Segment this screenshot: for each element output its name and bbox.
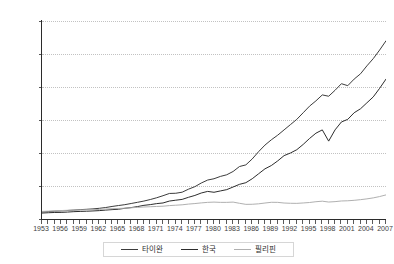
- x-axis-labels: 1953195619591962196519681971197419771980…: [41, 220, 386, 238]
- x-tick-mark: [232, 220, 233, 224]
- x-tick-mark: [296, 220, 297, 224]
- x-tick-label: 1983: [224, 225, 240, 233]
- x-tick-mark: [124, 220, 125, 224]
- x-tick-mark: [372, 220, 373, 224]
- x-tick-label: 2001: [339, 225, 355, 233]
- x-tick-mark: [219, 220, 220, 224]
- legend-entry-필리핀[interactable]: 필리핀: [234, 245, 276, 254]
- chart-title: [6, 0, 386, 3]
- legend-entry-한국[interactable]: 한국: [181, 245, 216, 254]
- x-tick-mark: [385, 220, 386, 224]
- x-tick-label: 1977: [186, 225, 202, 233]
- x-tick-label: 1995: [301, 225, 317, 233]
- legend-label: 타이완: [142, 245, 163, 254]
- chart-legend: 타이완한국필리핀: [103, 242, 294, 257]
- legend-swatch: [181, 249, 198, 250]
- x-tick-mark: [309, 220, 310, 224]
- x-tick-mark: [54, 220, 55, 224]
- x-tick-mark: [194, 220, 195, 224]
- x-tick-label: 1986: [243, 225, 259, 233]
- x-tick-mark: [86, 220, 87, 224]
- legend-label: 한국: [202, 245, 216, 254]
- x-tick-mark: [302, 220, 303, 224]
- x-tick-label: 1989: [263, 225, 279, 233]
- legend-swatch: [234, 249, 251, 250]
- x-tick-mark: [73, 220, 74, 224]
- legend-entry-타이완[interactable]: 타이완: [121, 245, 163, 254]
- x-tick-label: 1998: [320, 225, 336, 233]
- x-tick-mark: [347, 220, 348, 224]
- x-tick-mark: [188, 220, 189, 224]
- legend-swatch: [121, 249, 138, 250]
- x-tick-mark: [60, 220, 61, 224]
- x-tick-mark: [111, 220, 112, 224]
- x-tick-mark: [366, 220, 367, 224]
- x-tick-label: 2007: [377, 225, 393, 233]
- series-line-한국: [42, 79, 386, 213]
- x-tick-label: 1974: [167, 225, 183, 233]
- legend-label: 필리핀: [255, 245, 276, 254]
- x-tick-mark: [79, 220, 80, 224]
- x-tick-mark: [207, 220, 208, 224]
- x-tick-label: 1992: [282, 225, 298, 233]
- x-tick-label: 1956: [52, 225, 68, 233]
- x-tick-mark: [105, 220, 106, 224]
- x-tick-mark: [277, 220, 278, 224]
- x-tick-label: 1953: [33, 225, 49, 233]
- x-tick-mark: [149, 220, 150, 224]
- x-tick-mark: [226, 220, 227, 224]
- x-tick-mark: [289, 220, 290, 224]
- x-tick-mark: [340, 220, 341, 224]
- x-tick-mark: [47, 220, 48, 224]
- x-tick-mark: [143, 220, 144, 224]
- x-tick-mark: [98, 220, 99, 224]
- x-tick-mark: [334, 220, 335, 224]
- x-tick-mark: [175, 220, 176, 224]
- x-tick-label: 1962: [91, 225, 107, 233]
- x-tick-label: 1959: [71, 225, 87, 233]
- x-tick-mark: [264, 220, 265, 224]
- x-tick-mark: [41, 220, 42, 224]
- x-tick-mark: [66, 220, 67, 224]
- x-tick-mark: [137, 220, 138, 224]
- line-chart: 05,00010,00015,00020,00025,00030,000 195…: [0, 0, 394, 264]
- x-tick-mark: [168, 220, 169, 224]
- series-lines: [42, 21, 386, 219]
- x-tick-mark: [181, 220, 182, 224]
- x-tick-mark: [238, 220, 239, 224]
- y-axis-line: [41, 20, 42, 220]
- x-tick-mark: [270, 220, 271, 224]
- x-tick-mark: [162, 220, 163, 224]
- x-tick-mark: [315, 220, 316, 224]
- x-tick-mark: [130, 220, 131, 224]
- x-tick-mark: [200, 220, 201, 224]
- x-tick-mark: [353, 220, 354, 224]
- x-tick-label: 1971: [148, 225, 164, 233]
- x-tick-mark: [117, 220, 118, 224]
- x-tick-mark: [213, 220, 214, 224]
- x-tick-mark: [321, 220, 322, 224]
- x-tick-label: 2004: [358, 225, 374, 233]
- x-tick-label: 1965: [110, 225, 126, 233]
- x-tick-mark: [156, 220, 157, 224]
- x-tick-mark: [360, 220, 361, 224]
- series-line-타이완: [42, 41, 386, 212]
- plot-area: 05,00010,00015,00020,00025,00030,000: [42, 21, 386, 219]
- x-tick-mark: [283, 220, 284, 224]
- x-tick-mark: [92, 220, 93, 224]
- x-tick-mark: [328, 220, 329, 224]
- x-tick-label: 1968: [129, 225, 145, 233]
- x-tick-mark: [379, 220, 380, 224]
- x-tick-mark: [258, 220, 259, 224]
- x-tick-mark: [251, 220, 252, 224]
- x-tick-mark: [245, 220, 246, 224]
- x-tick-label: 1980: [205, 225, 221, 233]
